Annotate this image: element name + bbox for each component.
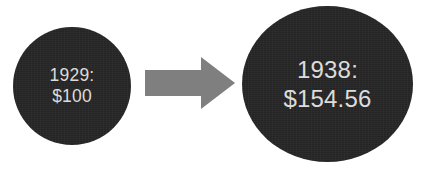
end-value-bubble: 1938: $154.56 <box>242 6 413 162</box>
start-year-label: 1929: <box>50 65 95 86</box>
start-amount-label: $100 <box>52 86 92 107</box>
right-arrow-icon <box>145 57 235 109</box>
end-amount-label: $154.56 <box>283 84 371 113</box>
start-value-bubble: 1929: $100 <box>13 27 131 145</box>
diagram-canvas: 1929: $100 1938: $154.56 <box>0 0 425 171</box>
end-year-label: 1938: <box>297 55 358 84</box>
